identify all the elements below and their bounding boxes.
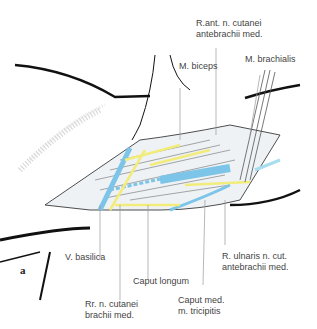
- label-m-biceps: M. biceps: [179, 61, 218, 72]
- label-v-basilica: V. basilica: [65, 252, 105, 263]
- label-m-brachialis: M. brachialis: [245, 54, 296, 65]
- incision-field: [45, 125, 280, 210]
- label-caput-longum: Caput longum: [133, 276, 189, 287]
- panel-letter: a: [20, 264, 26, 276]
- label-r-ant-n-cutanei: R.ant. n. cutanei antebrachii med.: [196, 18, 263, 40]
- skin-shading: [20, 105, 105, 170]
- upper-arm-contour: [15, 65, 150, 97]
- lower-arm-contour: [0, 228, 90, 240]
- label-r-ulnaris: R. ulnaris n. cut. antebrachii med.: [222, 251, 289, 273]
- label-rr-n-cutanei: Rr. n. cutanei brachii med.: [85, 299, 138, 321]
- label-caput-med: Caput med. m. tricipitis: [178, 295, 225, 317]
- anatomy-figure: R.ant. n. cutanei antebrachii med. M. br…: [0, 0, 317, 329]
